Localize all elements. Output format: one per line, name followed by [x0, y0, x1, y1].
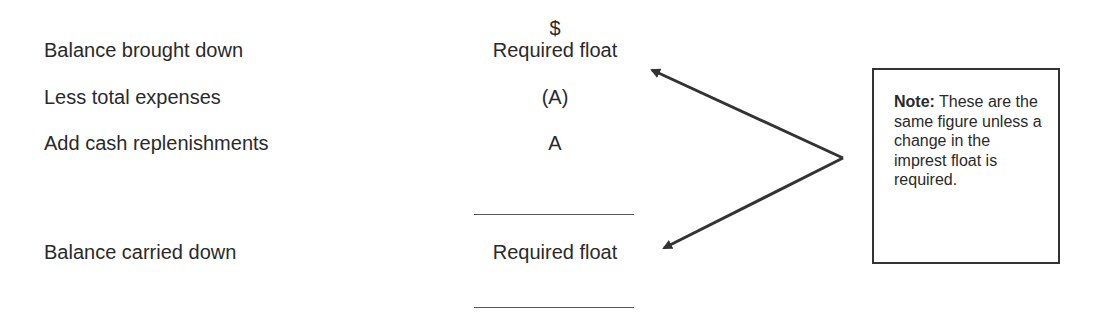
note-box: Note: These are the same figure unless a… [872, 68, 1060, 264]
note-title: Note: [894, 93, 935, 110]
